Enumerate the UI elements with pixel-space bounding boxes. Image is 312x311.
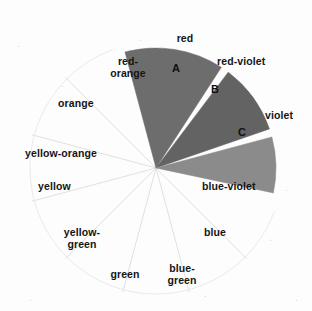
speck bbox=[205, 296, 206, 297]
color-label-violet: violet bbox=[265, 110, 309, 122]
speck bbox=[62, 86, 63, 87]
color-label-yellow: yellow bbox=[38, 181, 84, 193]
color-label-blue-violet: blue-violet bbox=[202, 181, 280, 193]
speck bbox=[250, 62, 251, 63]
speck bbox=[18, 46, 19, 47]
wedge-letter-a: A bbox=[172, 63, 180, 74]
speck bbox=[30, 300, 31, 301]
color-wheel-figure: redred-violetvioletblue-violetblueblue- … bbox=[0, 0, 312, 311]
color-label-red-orange: red- orange bbox=[104, 56, 152, 79]
color-label-blue-green: blue- green bbox=[160, 263, 204, 286]
color-label-yellow-orange: yellow-orange bbox=[25, 148, 117, 160]
color-label-red: red bbox=[160, 33, 210, 45]
speck bbox=[296, 300, 297, 301]
color-label-orange: orange bbox=[58, 98, 108, 110]
wedge-letter-b: B bbox=[211, 84, 219, 95]
color-label-red-violet: red-violet bbox=[217, 56, 289, 68]
speck bbox=[270, 240, 271, 241]
speck bbox=[286, 190, 287, 191]
wedge-letter-c: C bbox=[238, 127, 246, 138]
speck bbox=[96, 232, 97, 233]
color-label-yellow-green: yellow- green bbox=[54, 227, 110, 250]
color-label-blue: blue bbox=[204, 227, 240, 239]
speck bbox=[140, 40, 141, 41]
color-label-green: green bbox=[104, 269, 146, 281]
